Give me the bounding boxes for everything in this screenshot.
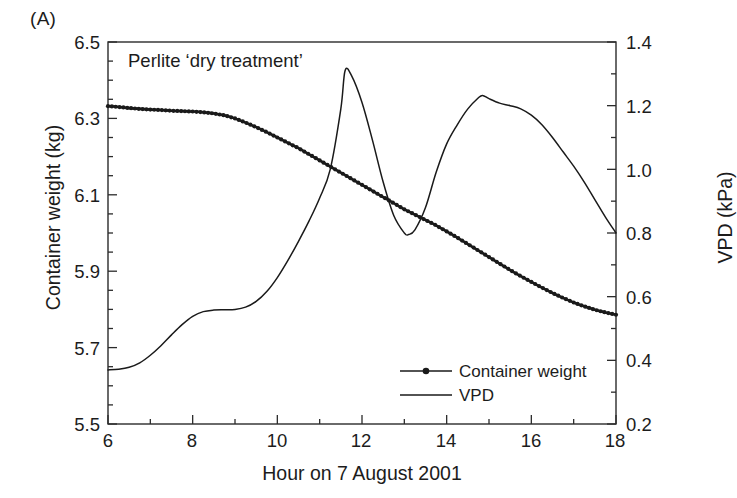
data-point-marker bbox=[587, 306, 591, 310]
data-point-marker bbox=[194, 110, 198, 114]
data-point-marker bbox=[498, 262, 502, 266]
data-point-marker bbox=[333, 167, 337, 171]
data-point-marker bbox=[171, 109, 175, 113]
data-point-marker bbox=[275, 135, 279, 139]
data-point-marker bbox=[575, 302, 579, 306]
data-point-marker bbox=[106, 104, 110, 108]
data-point-marker bbox=[572, 300, 576, 304]
data-point-marker bbox=[433, 223, 437, 227]
data-point-marker bbox=[506, 267, 510, 271]
data-point-marker bbox=[406, 209, 410, 213]
data-point-marker bbox=[452, 234, 456, 238]
data-point-marker bbox=[221, 113, 225, 117]
data-point-marker bbox=[518, 274, 522, 278]
data-point-marker bbox=[244, 121, 248, 125]
data-point-marker bbox=[341, 172, 345, 176]
data-point-marker bbox=[175, 109, 179, 113]
data-point-marker bbox=[475, 248, 479, 252]
data-point-marker bbox=[183, 109, 187, 113]
data-point-marker bbox=[337, 169, 341, 173]
data-point-marker bbox=[510, 269, 514, 273]
data-point-marker bbox=[595, 308, 599, 312]
data-point-marker bbox=[364, 185, 368, 189]
data-point-marker bbox=[548, 290, 552, 294]
axis-ticks bbox=[108, 42, 616, 424]
data-point-marker bbox=[129, 106, 133, 110]
data-point-marker bbox=[533, 282, 537, 286]
data-point-marker bbox=[529, 280, 533, 284]
data-point-marker bbox=[314, 156, 318, 160]
data-point-marker bbox=[414, 213, 418, 217]
data-point-marker bbox=[410, 211, 414, 215]
data-point-marker bbox=[306, 152, 310, 156]
data-point-marker bbox=[187, 109, 191, 113]
data-point-marker bbox=[460, 238, 464, 242]
data-point-marker bbox=[502, 264, 506, 268]
data-point-marker bbox=[164, 108, 168, 112]
data-point-marker bbox=[256, 126, 260, 130]
data-point-marker bbox=[152, 108, 156, 112]
data-point-marker bbox=[302, 149, 306, 153]
data-point-marker bbox=[564, 297, 568, 301]
data-point-marker bbox=[395, 203, 399, 207]
data-point-marker bbox=[191, 109, 195, 113]
data-point-marker bbox=[429, 221, 433, 225]
data-point-marker bbox=[437, 225, 441, 229]
data-point-marker bbox=[141, 107, 145, 111]
data-point-marker bbox=[568, 299, 572, 303]
data-point-marker bbox=[383, 196, 387, 200]
data-point-marker bbox=[241, 119, 245, 123]
data-point-marker bbox=[591, 307, 595, 311]
data-point-marker bbox=[468, 243, 472, 247]
data-point-marker bbox=[614, 313, 618, 317]
data-point-marker bbox=[229, 115, 233, 119]
data-point-marker bbox=[271, 133, 275, 137]
data-point-marker bbox=[210, 111, 214, 115]
data-point-marker bbox=[441, 227, 445, 231]
data-point-marker bbox=[325, 163, 329, 167]
data-point-marker bbox=[268, 132, 272, 136]
data-point-marker bbox=[456, 236, 460, 240]
data-point-marker bbox=[144, 107, 148, 111]
data-point-marker bbox=[294, 145, 298, 149]
data-point-marker bbox=[379, 194, 383, 198]
data-point-marker bbox=[110, 104, 114, 108]
data-point-marker bbox=[368, 187, 372, 191]
data-point-marker bbox=[522, 276, 526, 280]
data-point-marker bbox=[360, 183, 364, 187]
data-point-marker bbox=[264, 130, 268, 134]
data-point-marker bbox=[352, 178, 356, 182]
data-point-marker bbox=[310, 154, 314, 158]
data-point-marker bbox=[167, 109, 171, 113]
data-point-marker bbox=[371, 189, 375, 193]
data-point-marker bbox=[606, 311, 610, 315]
data-point-marker bbox=[248, 123, 252, 127]
data-point-marker bbox=[402, 207, 406, 211]
series-line-vpd bbox=[108, 68, 616, 370]
data-point-marker bbox=[491, 257, 495, 261]
data-series-layer bbox=[106, 68, 618, 370]
data-point-marker bbox=[599, 309, 603, 313]
data-point-marker bbox=[583, 305, 587, 309]
data-point-marker bbox=[133, 106, 137, 110]
data-point-marker bbox=[345, 174, 349, 178]
data-point-marker bbox=[298, 147, 302, 151]
data-point-marker bbox=[198, 110, 202, 114]
data-point-marker bbox=[148, 108, 152, 112]
data-point-marker bbox=[479, 250, 483, 254]
data-point-marker bbox=[321, 161, 325, 165]
data-point-marker bbox=[495, 260, 499, 264]
data-point-marker bbox=[233, 116, 237, 120]
data-point-marker bbox=[556, 294, 560, 298]
data-point-marker bbox=[398, 205, 402, 209]
data-point-marker bbox=[160, 108, 164, 112]
legend-swatch-dot bbox=[423, 368, 430, 375]
data-point-marker bbox=[206, 111, 210, 115]
data-point-marker bbox=[237, 118, 241, 122]
data-point-marker bbox=[348, 176, 352, 180]
data-point-marker bbox=[117, 105, 121, 109]
data-point-marker bbox=[125, 106, 129, 110]
data-point-marker bbox=[252, 124, 256, 128]
